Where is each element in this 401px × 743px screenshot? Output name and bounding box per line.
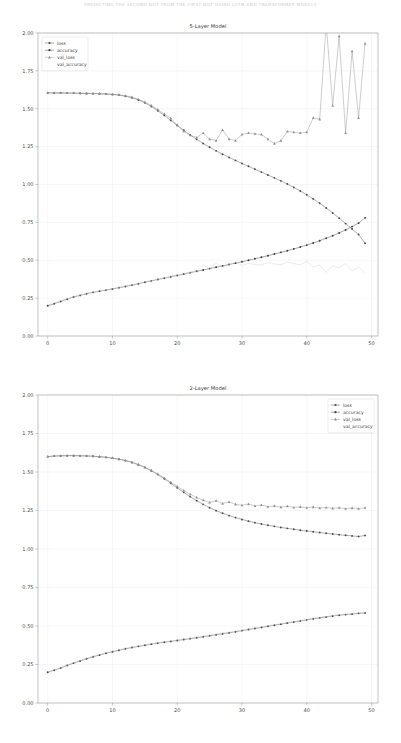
data-point-loss [351,228,353,230]
data-point-val_loss [286,505,289,508]
y-axis-tick-label: 0.50 [22,623,33,629]
x-axis-tick-label: 20 [174,340,180,346]
data-point-loss [248,520,250,522]
data-point-val_loss [247,503,250,506]
data-point-loss [202,142,204,144]
data-point-loss [364,535,366,537]
data-point-loss [248,165,250,167]
data-point-accuracy [47,305,49,307]
y-axis-tick-label: 2.00 [22,392,33,398]
data-point-loss [345,534,347,536]
data-point-val_loss [351,50,354,53]
y-axis-tick-label: 2.00 [22,30,33,36]
data-point-accuracy [332,235,334,237]
x-axis-tick-label: 10 [109,707,115,713]
y-axis-tick-label: 0.50 [22,257,33,263]
series-line-accuracy [48,613,365,672]
y-axis-tick-label: 1.00 [22,546,33,552]
data-point-accuracy [358,222,360,224]
legend-label-accuracy: accuracy [57,48,78,53]
data-point-val_loss [344,131,347,134]
data-point-loss [312,198,314,200]
chart-title: 5-Layer Model [190,23,227,30]
data-point-val_loss [357,116,360,119]
y-axis-tick-label: 0.25 [22,295,33,301]
chart-canvas-5-layer: 5-Layer Model0.000.250.500.751.001.251.5… [0,18,401,358]
data-point-loss [325,207,327,209]
x-axis-tick-label: 0 [46,707,49,713]
data-point-accuracy [312,242,314,244]
data-point-val_loss [312,506,315,509]
data-point-val_loss [169,117,172,120]
series-group [46,454,366,673]
data-point-val_loss [338,35,341,38]
data-point-val_loss [312,116,315,119]
x-axis-tick-label: 0 [46,340,49,346]
data-point-val_loss [163,112,166,115]
series-line-val_accuracy [48,261,365,304]
data-point-val_loss [215,499,218,502]
data-point-val_loss [351,507,354,510]
data-point-loss [273,525,275,527]
data-point-accuracy [364,612,366,614]
data-point-loss [351,535,353,537]
data-point-loss [222,153,224,155]
data-point-loss [183,491,185,493]
data-point-loss [260,523,262,525]
data-point-loss [299,529,301,531]
data-point-accuracy [202,269,204,271]
data-point-val_loss [182,489,185,492]
data-point-accuracy [286,250,288,252]
data-point-val_loss [247,131,250,134]
data-point-val_loss [331,104,334,107]
x-axis-tick-label: 30 [239,340,245,346]
data-point-val_loss [228,500,231,503]
figure-5-layer-model: 5-Layer Model0.000.250.500.751.001.251.5… [0,18,401,358]
data-point-loss [235,517,237,519]
data-point-loss [196,500,198,502]
series-line-val_accuracy [48,612,365,671]
data-point-loss [196,138,198,140]
data-point-loss [170,119,172,121]
data-point-val_loss [169,481,172,484]
data-point-loss [325,532,327,534]
data-point-accuracy [280,251,282,253]
data-point-loss [228,515,230,517]
data-point-loss [228,156,230,158]
data-point-accuracy [364,217,366,219]
y-axis-tick-label: 0.75 [22,584,33,590]
y-axis-tick-label: 1.50 [22,106,33,112]
series-line-loss [48,93,365,243]
data-point-accuracy [235,262,237,264]
series-line-loss [48,456,365,537]
data-point-loss [241,162,243,164]
data-point-accuracy [215,266,217,268]
y-axis-tick-label: 0.00 [22,700,33,706]
data-point-accuracy [299,246,301,248]
data-point-val_loss [325,506,328,509]
data-point-val_loss [273,504,276,507]
data-point-loss [189,496,191,498]
data-point-accuracy [306,244,308,246]
y-axis-tick-label: 1.75 [22,68,33,74]
data-point-val_loss [299,505,302,508]
y-axis-tick-label: 1.25 [22,143,33,149]
data-point-loss [299,190,301,192]
data-point-val_loss [176,485,179,488]
chart-title: 2-Layer Model [190,385,227,392]
data-point-loss [338,534,340,536]
data-point-loss [273,177,275,179]
data-point-val_loss [202,131,205,134]
data-point-accuracy [293,248,295,250]
data-point-loss [209,507,211,509]
data-point-accuracy [351,226,353,228]
chart-canvas-2-layer: 2-Layer Model0.000.250.500.751.001.251.5… [0,380,401,725]
data-point-loss [260,171,262,173]
data-point-accuracy [273,253,275,255]
data-point-loss [254,522,256,524]
legend-label-loss: loss [57,41,66,46]
y-axis-tick-label: 1.25 [22,507,33,513]
data-point-accuracy [267,255,269,257]
data-point-val_loss [195,496,198,499]
data-point-val_loss [150,104,153,107]
